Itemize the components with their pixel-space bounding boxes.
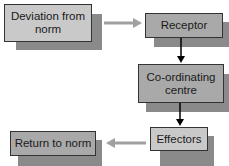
arrow-coordinating-to-effectors	[176, 103, 184, 126]
node-label: centre	[165, 84, 197, 97]
node-label: Return to norm	[15, 137, 92, 150]
node-label: Receptor	[161, 19, 208, 32]
node-receptor: Receptor	[145, 13, 223, 38]
node-return-to-norm: Return to norm	[10, 131, 96, 156]
node-label: Deviation from	[11, 10, 85, 23]
arrow-receptor-to-coordinating	[177, 38, 185, 63]
node-coordinating-centre: Co-ordinating centre	[138, 64, 224, 103]
node-label: norm	[35, 23, 61, 36]
arrow-deviation-to-receptor	[104, 18, 142, 28]
arrow-effectors-to-return	[106, 138, 146, 148]
node-deviation-from-norm: Deviation from norm	[4, 4, 92, 42]
node-label: Effectors	[156, 133, 201, 146]
node-effectors: Effectors	[150, 127, 208, 151]
node-label: Co-ordinating	[146, 71, 215, 84]
